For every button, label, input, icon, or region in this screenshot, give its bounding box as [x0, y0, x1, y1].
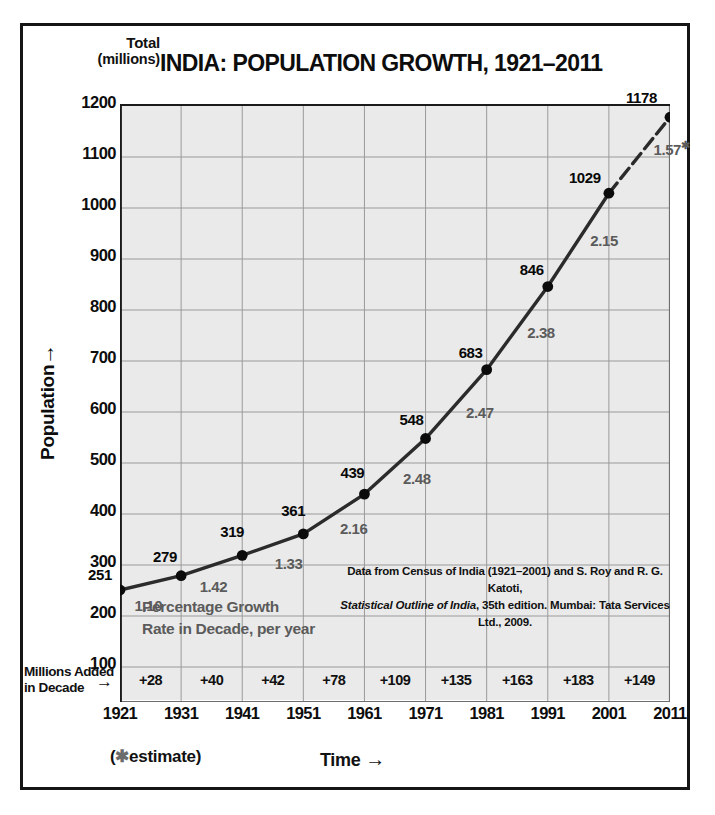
x-axis-tick-label: 2011 [635, 704, 705, 723]
data-point-marker [481, 364, 492, 375]
millions-added-value: +40 [181, 672, 243, 688]
millions-added-value: +42 [242, 672, 304, 688]
x-axis-tick-label: 1921 [85, 704, 155, 723]
growth-rate-label: 2.15 [590, 232, 618, 249]
y-axis-tick-label: 200 [52, 603, 116, 622]
data-point-marker [665, 112, 670, 123]
estimate-footnote-text: estimate) [129, 747, 201, 766]
x-axis-tick-label: 1971 [391, 704, 461, 723]
growth-rate-note-line2: Rate in Decade, per year [142, 618, 342, 640]
data-point-value-label: 1178 [626, 89, 657, 106]
data-point-value-label: 279 [153, 548, 177, 565]
x-axis-arrow-icon: → [365, 748, 385, 770]
data-point-marker [420, 433, 431, 444]
y-axis-tick-label: 1100 [52, 144, 116, 163]
data-point-marker [237, 550, 248, 561]
growth-rate-note-line1: Percentage Growth [142, 596, 342, 618]
estimate-footnote: (✱estimate) [110, 746, 201, 767]
x-axis-tick-label: 2001 [574, 704, 644, 723]
millions-added-value: +28 [120, 672, 182, 688]
y-axis-tick-label: 800 [52, 297, 116, 316]
data-point-value-label: 548 [400, 411, 424, 428]
data-point-value-label: 683 [459, 344, 483, 361]
y-axis-tick-label: 900 [52, 246, 116, 265]
growth-rate-label: 1.10 [135, 597, 163, 614]
x-axis-tick-label: 1931 [146, 704, 216, 723]
source-note-line2: Statistical Outline of India, 35th editi… [340, 597, 670, 631]
data-point-value-label: 1029 [569, 169, 601, 186]
data-point-value-label: 251 [88, 566, 112, 583]
y-axis-tick-label: 600 [52, 399, 116, 418]
millions-added-value: +183 [547, 672, 609, 688]
asterisk-icon: ✱ [115, 747, 129, 766]
data-point-value-label: 846 [520, 261, 544, 278]
data-point-value-label: 361 [281, 502, 305, 519]
data-point-marker [176, 570, 187, 581]
y-axis-tick-label: 1200 [52, 93, 116, 112]
y-axis-tick-label: 500 [52, 450, 116, 469]
x-axis-title-text: Time [320, 750, 361, 770]
data-point-marker [359, 489, 370, 500]
source-publication-rest: , 35th edition. Mumbai: Tata Services Lt… [476, 599, 670, 628]
growth-rate-label: 1.33 [275, 555, 303, 572]
data-point-marker [298, 528, 309, 539]
growth-rate-note: Percentage Growth Rate in Decade, per ye… [142, 596, 342, 640]
x-axis-tick-label: 1981 [452, 704, 522, 723]
millions-added-value: +135 [425, 672, 487, 688]
x-axis-tick-label: 1991 [513, 704, 583, 723]
growth-rate-label: 1.42 [200, 578, 228, 595]
source-note: Data from Census of India (1921–2001) an… [340, 563, 670, 631]
x-axis-title: Time → [320, 748, 385, 771]
source-publication-title: Statistical Outline of India [340, 599, 476, 611]
x-axis-tick-label: 1961 [329, 704, 399, 723]
y-axis-title: Population→ [35, 287, 59, 517]
millions-added-value: +78 [303, 672, 365, 688]
millions-added-arrow-icon: → [96, 672, 113, 692]
data-point-marker [542, 281, 553, 292]
data-point-value-label: 439 [340, 464, 364, 481]
millions-added-value: +163 [486, 672, 548, 688]
x-axis-tick-label: 1941 [207, 704, 277, 723]
chart-title: INDIA: POPULATION GROWTH, 1921–2011 [160, 50, 630, 77]
x-axis-tick-label: 1951 [268, 704, 338, 723]
y-axis-tick-label: 700 [52, 348, 116, 367]
growth-rate-label: 2.38 [527, 324, 555, 341]
source-note-line1: Data from Census of India (1921–2001) an… [340, 563, 670, 597]
growth-rate-label: 2.16 [340, 520, 368, 537]
millions-added-value: +109 [364, 672, 426, 688]
growth-rate-label: 2.48 [403, 470, 431, 487]
data-point-marker [120, 585, 125, 596]
y-axis-tick-label: 1000 [52, 195, 116, 214]
asterisk-icon: ✱ [681, 139, 690, 151]
growth-rate-label: 2.47 [466, 404, 494, 421]
population-growth-figure: Total (millions) INDIA: POPULATION GROWT… [0, 0, 715, 815]
data-point-value-label: 319 [220, 523, 244, 540]
millions-added-value: +149 [608, 672, 670, 688]
data-point-marker [603, 188, 614, 199]
growth-rate-label: 1.57✱ [653, 139, 689, 158]
y-axis-arrow-icon: → [35, 344, 58, 365]
y-axis-title-text: Population [37, 365, 58, 460]
y-axis-tick-label: 400 [52, 501, 116, 520]
